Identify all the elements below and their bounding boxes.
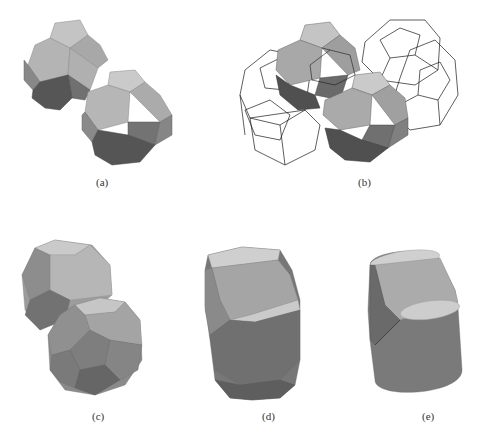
panel-e: (e)	[330, 220, 489, 430]
panel-d: (d)	[180, 220, 330, 430]
panel-b: (b)	[240, 0, 489, 200]
panel-label-d: (d)	[262, 410, 275, 422]
deformed-grain-pair	[0, 220, 170, 430]
panel-c: (c)	[0, 220, 170, 430]
panel-a: (a)	[0, 0, 230, 200]
panel-label-e: (e)	[422, 410, 434, 422]
panel-label-a: (a)	[96, 176, 108, 188]
panel-label-c: (c)	[92, 410, 104, 422]
cylinder-body	[368, 246, 462, 392]
cylindrical-grain-pair	[330, 220, 489, 430]
panel-label-b: (b)	[358, 176, 371, 188]
elongated-grain-pair	[180, 220, 330, 430]
truncated-octahedra-with-wireframe	[240, 0, 489, 200]
front-polyhedron	[82, 70, 172, 165]
grain-body	[205, 247, 300, 400]
truncated-octahedra-solid	[0, 0, 230, 200]
